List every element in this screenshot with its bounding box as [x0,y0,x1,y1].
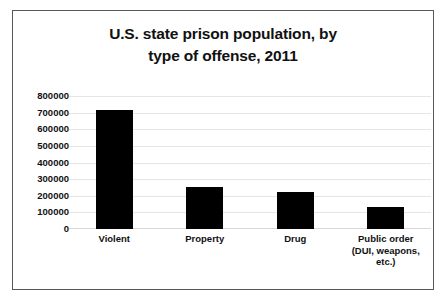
y-tick-label: 800000 [19,91,69,101]
y-tick-label: 100000 [19,207,69,217]
y-tick-label: 0 [19,224,69,234]
bar-property [186,187,223,229]
y-tick-label: 300000 [19,174,69,184]
bar-public-order [367,207,404,229]
y-tick-label: 500000 [19,141,69,151]
x-axis: Violent Property Drug Public order(DUI, … [69,233,431,289]
y-tick-label: 600000 [19,124,69,134]
x-tick-label-line: Violent [69,233,160,245]
plot-wrapper: 800000 700000 600000 500000 400000 30000… [13,11,433,289]
bar-violent [96,110,133,229]
x-tick-label-public-order: Public order(DUI, weapons,etc.) [341,233,432,268]
x-tick-label-drug: Drug [250,233,341,245]
x-tick-label-line: Public order [341,233,432,245]
bars-layer [69,96,431,229]
x-tick-label-violent: Violent [69,233,160,245]
y-tick-label: 400000 [19,158,69,168]
y-axis: 800000 700000 600000 500000 400000 30000… [19,11,69,289]
bar-drug [277,192,314,229]
plot-area [69,96,431,229]
x-tick-label-line: etc.) [341,256,432,268]
y-tick-label: 700000 [19,108,69,118]
chart-frame: U.S. state prison population, by type of… [12,10,434,290]
y-tick-label: 200000 [19,191,69,201]
x-tick-label-line: Property [160,233,251,245]
x-tick-label-property: Property [160,233,251,245]
x-tick-label-line: (DUI, weapons, [341,245,432,257]
x-tick-label-line: Drug [250,233,341,245]
